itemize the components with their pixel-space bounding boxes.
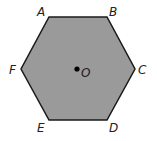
vertex-label-c: C [138,63,147,77]
vertex-label-b: B [109,5,117,19]
vertex-label-d: D [109,121,118,135]
vertex-label-f: F [9,63,17,77]
vertex-label-e: E [37,121,45,135]
center-label-o: O [81,66,90,80]
center-point [74,66,79,71]
vertex-label-a: A [36,5,45,19]
hexagon-diagram: A B C D E F O [0,0,157,141]
